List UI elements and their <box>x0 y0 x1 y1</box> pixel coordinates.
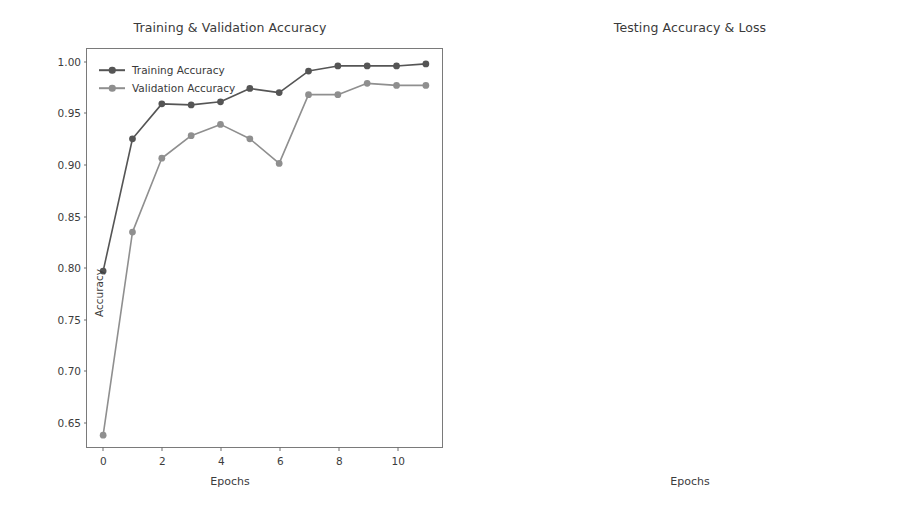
accuracy-plot-area: Accuracy Training Accuracy Validation Ac… <box>86 48 443 448</box>
data-point-marker <box>246 135 253 142</box>
y-axis-tick-label: 1.00 <box>58 56 81 68</box>
y-axis-tick-mark <box>84 164 88 165</box>
data-point-marker <box>422 82 429 89</box>
accuracy-y-axis-label: Accuracy <box>93 213 105 373</box>
accuracy-legend: Training Accuracy Validation Accuracy <box>99 61 235 97</box>
x-axis-tick-label: 8 <box>336 455 343 467</box>
y-axis-tick-label: 0.70 <box>58 365 81 377</box>
x-axis-tick-label: 2 <box>159 455 166 467</box>
data-point-marker <box>188 102 195 109</box>
loss-x-axis-label: Epochs <box>460 475 920 488</box>
x-axis-tick-mark <box>398 447 399 451</box>
x-axis-tick-label: 6 <box>277 455 284 467</box>
data-point-marker <box>422 60 429 67</box>
data-point-marker <box>129 135 136 142</box>
x-axis-tick-label: 10 <box>392 455 405 467</box>
y-axis-tick-mark <box>84 268 88 269</box>
data-point-marker <box>129 229 136 236</box>
x-axis-tick-mark <box>162 447 163 451</box>
y-axis-tick-label: 0.65 <box>58 417 81 429</box>
x-axis-tick-mark <box>103 447 104 451</box>
data-point-marker <box>334 91 341 98</box>
y-axis-tick-label: 0.85 <box>58 211 81 223</box>
y-axis-tick-mark <box>84 113 88 114</box>
data-point-marker <box>276 160 283 167</box>
legend-label: Validation Accuracy <box>132 83 235 94</box>
y-axis-tick-label: 0.90 <box>58 159 81 171</box>
x-axis-tick-mark <box>280 447 281 451</box>
legend-item-training-accuracy: Training Accuracy <box>99 61 235 79</box>
data-point-marker <box>393 82 400 89</box>
loss-chart-title: Testing Accuracy & Loss <box>460 20 920 35</box>
accuracy-chart-panel: Training & Validation Accuracy Accuracy … <box>0 0 460 512</box>
data-point-marker <box>305 91 312 98</box>
line-marker-icon <box>99 65 125 75</box>
data-point-marker <box>364 63 371 70</box>
data-point-marker <box>334 63 341 70</box>
loss-chart-panel: Testing Accuracy & Loss Training & Valid… <box>460 0 920 512</box>
data-point-marker <box>217 121 224 128</box>
y-axis-tick-label: 0.75 <box>58 314 81 326</box>
y-axis-tick-label: 0.95 <box>58 107 81 119</box>
data-point-marker <box>158 100 165 107</box>
accuracy-plot-lines <box>87 49 442 447</box>
y-axis-tick-mark <box>84 319 88 320</box>
accuracy-chart-title: Training & Validation Accuracy <box>0 20 460 35</box>
data-point-marker <box>158 155 165 162</box>
figure-canvas: Training & Validation Accuracy Accuracy … <box>0 0 920 512</box>
x-axis-tick-mark <box>221 447 222 451</box>
y-axis-tick-mark <box>84 61 88 62</box>
legend-item-validation-accuracy: Validation Accuracy <box>99 79 235 97</box>
x-axis-tick-label: 4 <box>218 455 225 467</box>
data-point-marker <box>364 80 371 87</box>
y-axis-tick-mark <box>84 216 88 217</box>
data-point-marker <box>217 98 224 105</box>
data-point-marker <box>246 85 253 92</box>
data-point-marker <box>393 63 400 70</box>
y-axis-tick-mark <box>84 371 88 372</box>
accuracy-x-axis-label: Epochs <box>0 475 460 488</box>
data-point-marker <box>188 132 195 139</box>
y-axis-tick-label: 0.80 <box>58 262 81 274</box>
legend-label: Training Accuracy <box>132 65 225 76</box>
line-marker-icon <box>99 83 125 93</box>
y-axis-tick-mark <box>84 422 88 423</box>
data-point-marker <box>305 68 312 75</box>
data-point-marker <box>100 432 107 439</box>
data-line <box>103 83 426 435</box>
x-axis-tick-mark <box>339 447 340 451</box>
x-axis-tick-label: 0 <box>100 455 107 467</box>
data-point-marker <box>276 89 283 96</box>
